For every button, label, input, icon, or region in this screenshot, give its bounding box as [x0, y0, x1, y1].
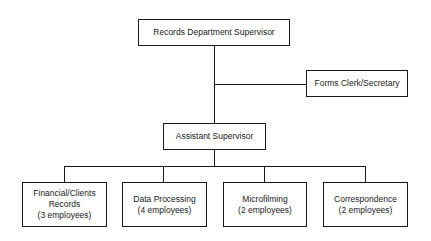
node-assistant-supervisor: Assistant Supervisor — [163, 123, 266, 150]
node-records-supervisor: Records Department Supervisor — [138, 19, 290, 46]
node-count: (4 employees) — [138, 205, 192, 216]
node-label: Forms Clerk/Secretary — [314, 78, 399, 89]
node-microfilming: Microfilming (2 employees) — [223, 182, 307, 227]
node-correspondence: Correspondence (2 employees) — [323, 182, 408, 227]
node-label: Correspondence — [334, 194, 397, 205]
node-count: (2 employees) — [339, 205, 393, 216]
connector-drop-data-processing — [163, 166, 164, 182]
connector-to-forms-clerk — [214, 84, 306, 85]
node-data-processing: Data Processing (4 employees) — [122, 182, 207, 227]
node-financial-clients-records: Financial/Clients Records (3 employees) — [22, 182, 107, 227]
node-count: (2 employees) — [238, 205, 292, 216]
node-label: Data Processing — [133, 194, 195, 205]
node-label: Financial/Clients — [33, 188, 95, 199]
node-label: Records Department Supervisor — [153, 27, 274, 38]
node-label: Microfilming — [242, 194, 287, 205]
node-count: (3 employees) — [38, 210, 92, 221]
connector-bus — [64, 166, 366, 167]
connector-drop-financial — [64, 166, 65, 182]
connector-assistant-to-bus — [214, 149, 215, 166]
node-forms-clerk: Forms Clerk/Secretary — [306, 70, 408, 97]
connector-drop-microfilming — [264, 166, 265, 182]
connector-drop-correspondence — [365, 166, 366, 182]
node-label: Assistant Supervisor — [176, 131, 253, 142]
node-label: Records — [49, 199, 81, 210]
